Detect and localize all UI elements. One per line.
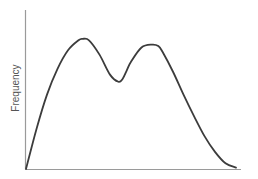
series-layer — [26, 39, 236, 169]
y-axis-label: Frequency — [10, 64, 21, 111]
series-line-distribution — [26, 39, 236, 169]
chart: Frequency — [0, 0, 258, 179]
